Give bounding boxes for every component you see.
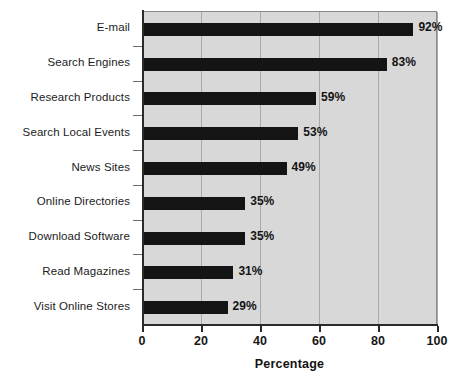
bar — [142, 162, 287, 175]
bar-value-label: 31% — [238, 265, 262, 278]
category-label: E-mail — [0, 21, 130, 34]
x-axis-tick-label: 40 — [240, 334, 280, 349]
y-axis-category-labels: E-mailSearch EnginesResearch ProductsSea… — [0, 11, 138, 324]
x-axis-tick — [378, 326, 380, 332]
x-axis-tick — [319, 326, 321, 332]
x-axis-line — [142, 324, 438, 326]
x-axis-tick — [201, 326, 203, 332]
bar-value-label: 92% — [418, 21, 442, 34]
x-axis-tick-label: 60 — [299, 334, 339, 349]
x-axis-tick — [142, 326, 144, 332]
bar — [142, 232, 245, 245]
bar-value-label: 49% — [292, 161, 316, 174]
x-axis-title: Percentage — [142, 357, 437, 371]
category-label: Read Magazines — [0, 265, 130, 278]
category-label: Search Local Events — [0, 126, 130, 139]
bar — [142, 301, 228, 314]
bar — [142, 58, 387, 71]
x-axis-tick-label: 100 — [417, 334, 457, 349]
category-label: Online Directories — [0, 195, 130, 208]
bar-chart: E-mailSearch EnginesResearch ProductsSea… — [0, 0, 460, 383]
category-label: Download Software — [0, 230, 130, 243]
category-label: Visit Online Stores — [0, 300, 130, 313]
bar — [142, 197, 245, 210]
x-axis-tick-label: 0 — [122, 334, 162, 349]
y-axis-line — [142, 10, 144, 326]
bar-value-label: 35% — [250, 230, 274, 243]
bar-value-label: 53% — [303, 126, 327, 139]
x-axis-tick — [260, 326, 262, 332]
bar-value-label: 35% — [250, 195, 274, 208]
bar — [142, 92, 316, 105]
x-axis-tick-label: 80 — [358, 334, 398, 349]
bar — [142, 127, 298, 140]
bar-value-label: 83% — [392, 56, 416, 69]
category-label: Research Products — [0, 91, 130, 104]
bar-value-label: 59% — [321, 91, 345, 104]
x-axis-tick-label: 20 — [181, 334, 221, 349]
gridline — [437, 12, 438, 325]
bar — [142, 266, 233, 279]
bar — [142, 23, 413, 36]
bar-value-label: 29% — [233, 300, 257, 313]
category-label: Search Engines — [0, 56, 130, 69]
category-label: News Sites — [0, 161, 130, 174]
x-axis-tick — [437, 326, 439, 332]
